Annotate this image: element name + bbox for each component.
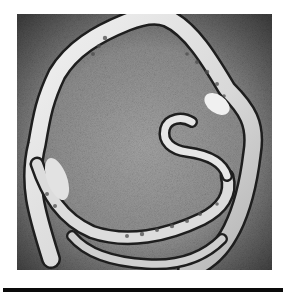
specimen-photo <box>17 14 272 270</box>
specimen-image <box>17 14 272 270</box>
horizontal-rule <box>3 288 283 292</box>
